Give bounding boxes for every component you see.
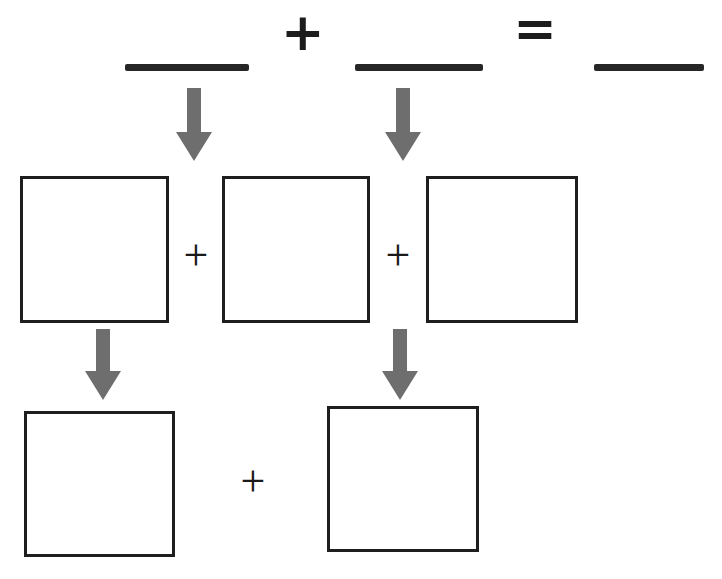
second-addend-blank[interactable]: [355, 64, 483, 71]
result-box-2[interactable]: [327, 406, 479, 552]
result-box-1[interactable]: [24, 411, 175, 557]
plus-sign-bottom: +: [233, 460, 273, 504]
plus-sign-middle-1: +: [176, 234, 216, 278]
work-box-3[interactable]: [426, 176, 578, 323]
plus-sign-top: +: [281, 6, 321, 58]
equals-sign-top: =: [512, 2, 558, 54]
arrow-to-result-box-2: [379, 329, 421, 401]
sum-blank[interactable]: [594, 64, 704, 71]
first-addend-blank[interactable]: [125, 64, 249, 71]
arrow-to-work-box-3: [381, 88, 425, 162]
plus-sign-middle-2: +: [378, 234, 418, 278]
arrow-to-work-box-1: [172, 88, 216, 162]
arrow-to-result-box-1: [82, 329, 124, 401]
work-box-1[interactable]: [20, 176, 169, 323]
work-box-2[interactable]: [222, 176, 370, 323]
worksheet-canvas: + = + + +: [0, 0, 722, 579]
